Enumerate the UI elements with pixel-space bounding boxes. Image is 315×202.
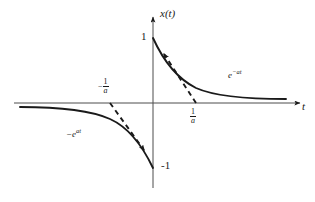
curve-exp-decay-right [153, 38, 286, 99]
y-tick-label-positive-one: 1 [141, 31, 147, 42]
positive-tau-fraction: 1a [190, 108, 196, 126]
plot-canvas [0, 0, 315, 202]
curve-label-left-exponent: at [76, 127, 81, 134]
curve-exp-decay-left [20, 107, 153, 168]
x-tick-label-negative-tau: −1a [98, 78, 109, 96]
negative-tau-denominator: a [103, 87, 109, 95]
curve-label-left: −eat [66, 128, 81, 139]
y-tick-label-negative-one: -1 [161, 160, 170, 171]
curve-label-right-exponent: −at [232, 68, 241, 75]
negative-tau-fraction: 1a [103, 78, 109, 96]
tangent-line-left [110, 103, 144, 150]
exponential-signal-figure: x(t) t 1 -1 e−at −eat −1a 1a [0, 0, 315, 202]
y-axis-label: x(t) [160, 8, 175, 19]
x-axis-label: t [302, 101, 305, 112]
positive-tau-denominator: a [190, 117, 196, 125]
x-tick-label-positive-tau: 1a [190, 108, 196, 126]
curve-label-right: e−at [228, 69, 241, 80]
tangent-line-right [164, 54, 196, 103]
